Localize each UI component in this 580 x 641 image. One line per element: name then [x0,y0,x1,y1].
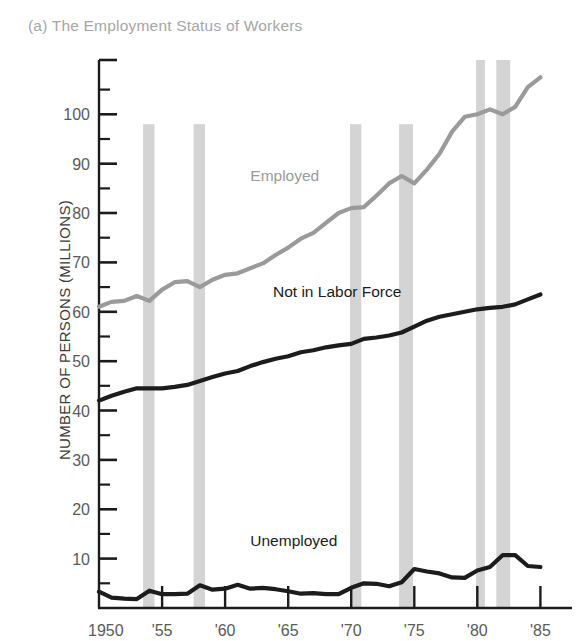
x-tick-label: '55 [152,622,173,639]
y-tick-label: 60 [72,304,90,321]
y-tick-label: 90 [72,156,90,173]
recession-band [399,124,413,608]
recession-band [496,60,510,608]
recession-band [350,124,361,608]
x-tick-label: '80 [467,622,488,639]
y-tick-label: 50 [72,353,90,370]
recession-band [476,60,485,608]
recession-band [194,124,205,608]
y-tick-labels-group: 102030405060708090100 [63,106,90,567]
series-line-unemployed [99,555,540,599]
data-series-group [99,77,540,599]
figure-container: (a) The Employment Status of Workers NUM… [0,0,580,641]
recession-band [143,124,154,608]
y-tick-label: 70 [72,254,90,271]
x-tick-label: 1950 [88,622,124,639]
y-tick-label: 100 [63,106,90,123]
x-tick-label: '75 [404,622,425,639]
series-label-not-in-labor-force: Not in Labor Force [273,283,401,300]
series-line-employed [99,77,540,306]
y-tick-label: 10 [72,551,90,568]
recession-bands-group [143,60,510,608]
x-tick-label: '60 [215,622,236,639]
series-label-unemployed: Unemployed [250,532,337,549]
y-tick-label: 40 [72,403,90,420]
y-tick-label: 30 [72,452,90,469]
series-label-employed: Employed [250,167,319,184]
x-tick-labels-group: 1950'55'60'65'70'75'80'85 [88,622,551,639]
x-tick-label: '65 [278,622,299,639]
y-tick-label: 20 [72,501,90,518]
series-line-not-in-labor-force [99,295,540,401]
x-tick-label: '70 [341,622,362,639]
y-tick-label: 80 [72,205,90,222]
x-tick-label: '85 [530,622,551,639]
line-chart-plot: 102030405060708090100 1950'55'60'65'70'7… [0,0,580,641]
